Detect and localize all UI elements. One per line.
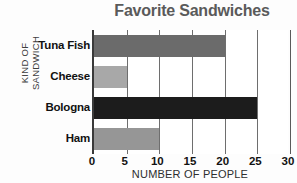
- x-tick-label: 5: [110, 155, 140, 167]
- gridline: [257, 30, 258, 154]
- gridline: [225, 30, 226, 154]
- category-label: Tuna Fish: [18, 39, 90, 51]
- gridline: [290, 30, 291, 154]
- x-axis-tick-labels: 051015202530: [92, 155, 288, 169]
- bar-fill: [94, 66, 127, 88]
- bar: [94, 97, 257, 119]
- x-tick-label: 20: [208, 155, 238, 167]
- bar: [94, 35, 225, 57]
- bar: [94, 128, 159, 150]
- bar-chart: Favorite Sandwiches KIND OF SANDWICH Tun…: [0, 0, 297, 183]
- x-tick-label: 25: [240, 155, 270, 167]
- bar-fill: [94, 128, 159, 150]
- category-label: Ham: [18, 132, 90, 144]
- category-label: Bologna: [18, 101, 90, 113]
- plot-area: [92, 30, 288, 154]
- bar: [94, 66, 127, 88]
- bar-fill: [94, 35, 225, 57]
- x-tick-label: 10: [142, 155, 172, 167]
- x-axis-title: NUMBER OF PEOPLE: [92, 168, 288, 180]
- x-tick-label: 0: [77, 155, 107, 167]
- x-tick-label: 30: [273, 155, 297, 167]
- category-label: Cheese: [18, 70, 90, 82]
- bar-fill: [94, 97, 257, 119]
- chart-title: Favorite Sandwiches: [92, 2, 292, 20]
- category-axis-labels: Tuna FishCheeseBolognaHam: [16, 30, 90, 154]
- x-tick-label: 15: [175, 155, 205, 167]
